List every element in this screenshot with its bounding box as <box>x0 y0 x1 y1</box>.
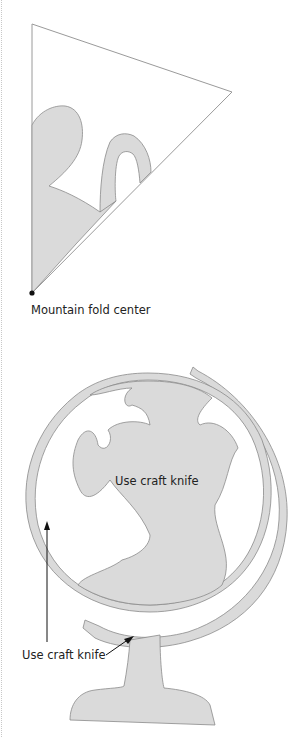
fold-template: Mountain fold center <box>29 24 232 317</box>
arrow-head-up <box>44 521 50 530</box>
inner-knife-label: Use craft knife <box>115 474 199 488</box>
fold-center-label: Mountain fold center <box>31 303 151 317</box>
globe-template <box>26 367 287 725</box>
outer-knife-label: Use craft knife <box>22 648 106 662</box>
globe-continents <box>73 381 238 605</box>
template-diagram: Mountain fold center Use craft knife Use… <box>0 0 307 737</box>
fold-center-dot <box>29 290 34 295</box>
